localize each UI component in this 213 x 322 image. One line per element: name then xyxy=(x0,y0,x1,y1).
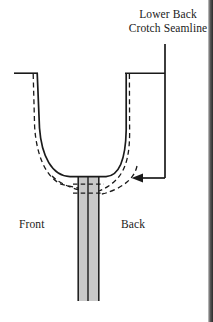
front-label: Front xyxy=(19,218,44,230)
figure-page: Lower Back Crotch Seamline Front Back xyxy=(0,0,213,322)
callout-label-line1: Lower Back xyxy=(139,8,197,20)
page-scan-edge xyxy=(208,0,213,322)
inseam-shaded-column xyxy=(78,176,99,301)
callout-label-line2: Crotch Seamline xyxy=(129,22,207,34)
back-label: Back xyxy=(121,218,145,230)
callout-label: Lower Back Crotch Seamline xyxy=(126,8,210,35)
original-crotch-seamline xyxy=(37,73,126,177)
crotch-seamline-diagram xyxy=(0,0,213,322)
callout-leader-line xyxy=(132,44,166,183)
